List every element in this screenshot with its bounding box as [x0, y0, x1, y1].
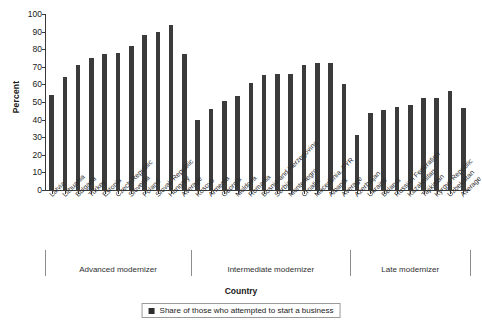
group-label: Advanced modernizer	[45, 265, 191, 274]
bar	[49, 95, 54, 190]
y-tick-label: 80	[33, 45, 42, 54]
y-axis-title: Percent	[11, 62, 21, 132]
y-tick-label: 10	[33, 168, 42, 177]
legend-label: Share of those who attempted to start a …	[160, 306, 334, 315]
bar	[116, 53, 121, 190]
y-tick-label: 50	[33, 98, 42, 107]
y-tick-label: 60	[33, 80, 42, 89]
legend: Share of those who attempted to start a …	[142, 303, 341, 318]
bar	[129, 46, 134, 190]
bar	[302, 65, 307, 190]
bar	[102, 54, 107, 190]
bar	[63, 77, 68, 190]
bar	[328, 63, 333, 190]
bar	[156, 32, 161, 190]
y-tick-label: 30	[33, 133, 42, 142]
bar	[89, 58, 94, 190]
bar	[169, 25, 174, 190]
y-tick-label: 40	[33, 115, 42, 124]
y-tick-label: 20	[33, 151, 42, 160]
group-label: Late modernizer	[350, 265, 470, 274]
group-separator	[470, 250, 471, 276]
legend-swatch-icon	[149, 308, 155, 314]
y-tick-label: 90	[33, 27, 42, 36]
bar	[342, 84, 347, 190]
group-brackets: Advanced modernizerIntermediate moderniz…	[45, 255, 475, 281]
group-label: Intermediate modernizer	[191, 265, 350, 274]
bar-series	[45, 14, 470, 191]
x-axis-title: Country	[0, 286, 482, 296]
plot-area: 0102030405060708090100	[45, 14, 470, 191]
bar-chart: Percent 0102030405060708090100 LatviaLit…	[0, 0, 482, 333]
bar	[76, 65, 81, 190]
y-tick-label: 70	[33, 63, 42, 72]
y-tick-label: 100	[28, 10, 42, 19]
x-axis-labels: LatviaLithuaniaBulgariaTurkeyEstoniaCzec…	[45, 193, 475, 255]
